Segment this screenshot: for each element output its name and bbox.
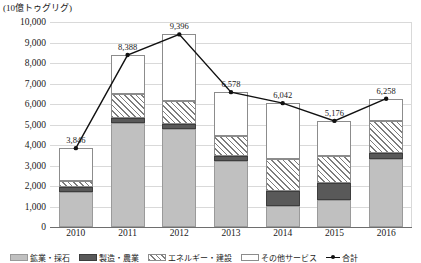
bar-segment-energy[interactable] <box>111 94 145 118</box>
legend-label: 合計 <box>342 252 358 263</box>
bar-segment-mining[interactable] <box>266 206 300 227</box>
bar-segment-energy[interactable] <box>59 181 93 187</box>
bar-group[interactable] <box>214 22 248 227</box>
y-axis-tick-label: 8,000 <box>2 58 46 68</box>
bar-group[interactable] <box>317 22 351 227</box>
bar-segment-mining[interactable] <box>111 123 145 227</box>
bar-segment-mining[interactable] <box>214 161 248 227</box>
y-axis-tick-label: 3,000 <box>2 161 46 171</box>
x-axis-tick-label: 2012 <box>162 228 196 238</box>
x-axis-tick-label: 2013 <box>214 228 248 238</box>
bar-segment-other_services[interactable] <box>111 55 145 94</box>
x-axis-tick-label: 2010 <box>59 228 93 238</box>
bar-segment-mining[interactable] <box>59 192 93 227</box>
bar-segment-energy[interactable] <box>266 159 300 191</box>
plot-area: 2010201120122013201420152016 <box>50 22 412 227</box>
bar-segment-other_services[interactable] <box>369 99 403 122</box>
x-axis-tick-label: 2016 <box>369 228 403 238</box>
stacked-bar-chart: (10億トゥグリグ) 01,0002,0003,0004,0005,0006,0… <box>0 0 421 263</box>
legend-swatch-icon <box>79 254 97 261</box>
bar-segment-manufacturing[interactable] <box>317 183 351 199</box>
legend-swatch-icon <box>10 254 28 261</box>
y-axis-unit-label: (10億トゥグリグ) <box>3 1 72 14</box>
bar-segment-energy[interactable] <box>162 101 196 124</box>
chart-legend: 鉱業・採石製造・農業エネルギー・建設その他サービス合計 <box>10 252 421 263</box>
bar-segment-manufacturing[interactable] <box>214 156 248 161</box>
bar-segment-energy[interactable] <box>369 121 403 153</box>
y-axis-tick-label: 0 <box>2 222 46 232</box>
x-axis-tick-label: 2014 <box>266 228 300 238</box>
bar-segment-manufacturing[interactable] <box>162 124 196 129</box>
bar-segment-other_services[interactable] <box>214 92 248 136</box>
y-axis-tick-label: 5,000 <box>2 120 46 130</box>
y-axis-tick-label: 2,000 <box>2 181 46 191</box>
legend-swatch-icon <box>241 254 259 261</box>
bar-segment-manufacturing[interactable] <box>59 187 93 191</box>
bar-segment-other_services[interactable] <box>162 34 196 101</box>
bar-segment-energy[interactable] <box>317 156 351 183</box>
legend-label: エネルギー・建設 <box>168 252 232 263</box>
bar-segment-other_services[interactable] <box>59 148 93 181</box>
legend-label: 鉱業・採石 <box>30 252 70 263</box>
bar-group[interactable] <box>162 22 196 227</box>
bar-segment-mining[interactable] <box>162 129 196 227</box>
x-axis-tick-label: 2011 <box>111 228 145 238</box>
legend-swatch-icon <box>148 254 166 261</box>
x-axis-tick-label: 2015 <box>317 228 351 238</box>
legend-swatch-icon <box>326 257 340 258</box>
bar-segment-other_services[interactable] <box>266 103 300 159</box>
y-axis-tick-label: 10,000 <box>2 17 46 27</box>
y-axis-tick-label: 6,000 <box>2 99 46 109</box>
legend-item[interactable]: 合計 <box>326 252 358 263</box>
bar-segment-mining[interactable] <box>317 200 351 227</box>
bar-group[interactable] <box>266 22 300 227</box>
bar-segment-other_services[interactable] <box>317 121 351 156</box>
legend-item[interactable]: 製造・農業 <box>79 252 139 263</box>
y-axis-tick-label: 1,000 <box>2 202 46 212</box>
y-axis-tick-label: 9,000 <box>2 38 46 48</box>
legend-label: その他サービス <box>261 252 317 263</box>
bar-segment-energy[interactable] <box>214 136 248 157</box>
bar-segment-manufacturing[interactable] <box>369 153 403 159</box>
bar-group[interactable] <box>369 22 403 227</box>
bar-segment-manufacturing[interactable] <box>111 118 145 123</box>
bar-segment-manufacturing[interactable] <box>266 191 300 206</box>
legend-label: 製造・農業 <box>99 252 139 263</box>
bar-segment-mining[interactable] <box>369 159 403 227</box>
bar-group[interactable] <box>59 22 93 227</box>
y-axis-tick-label: 4,000 <box>2 140 46 150</box>
bar-group[interactable] <box>111 22 145 227</box>
legend-item[interactable]: その他サービス <box>241 252 317 263</box>
legend-item[interactable]: 鉱業・採石 <box>10 252 70 263</box>
y-axis: 01,0002,0003,0004,0005,0006,0007,0008,00… <box>0 22 46 227</box>
y-axis-tick-label: 7,000 <box>2 79 46 89</box>
legend-item[interactable]: エネルギー・建設 <box>148 252 232 263</box>
